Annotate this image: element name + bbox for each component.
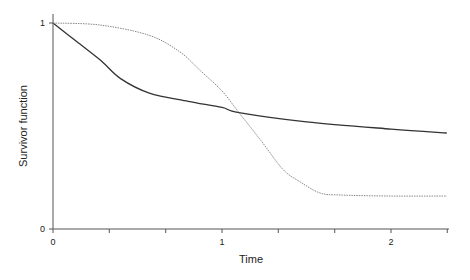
series-solid-line	[53, 23, 447, 133]
series-lines	[53, 23, 447, 196]
y-ticks: 01	[40, 18, 53, 234]
x-tick-label: 0	[50, 237, 55, 247]
axes	[53, 14, 449, 229]
x-tick-label: 1	[219, 237, 224, 247]
survivor-chart: 012 01 Time Survivor function	[0, 0, 470, 280]
y-tick-label: 0	[40, 224, 45, 234]
x-ticks: 012	[50, 229, 447, 247]
x-axis-title: Time	[239, 253, 263, 265]
y-tick-label: 1	[40, 18, 45, 28]
y-axis-title: Survivor function	[17, 85, 29, 167]
series-dotted-line	[53, 23, 447, 196]
x-tick-label: 2	[388, 237, 393, 247]
